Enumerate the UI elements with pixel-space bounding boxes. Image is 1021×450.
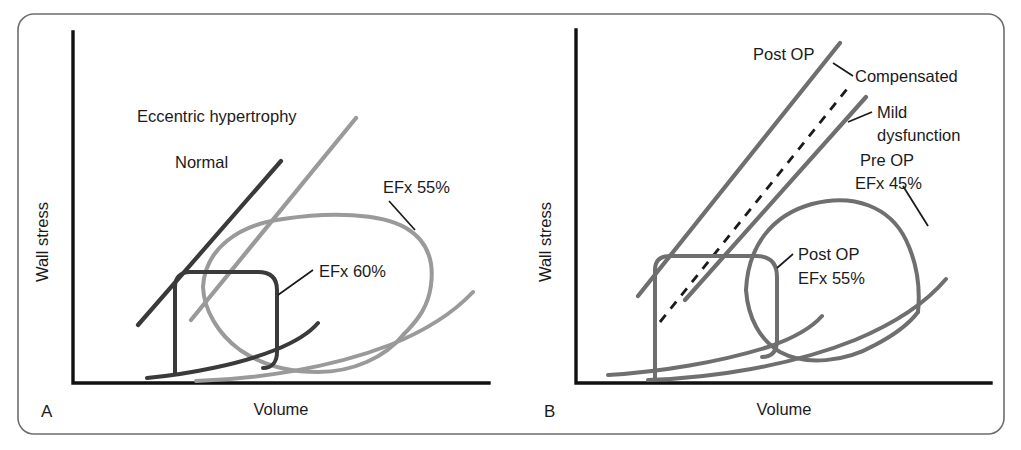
label-eccentric-hypertrophy: Eccentric hypertrophy <box>137 107 297 125</box>
label-dysfunction: dysfunction <box>877 126 960 144</box>
panel-a-y-axis-label: Wall stress <box>33 202 51 282</box>
panel-b-x-axis-label: Volume <box>756 400 811 418</box>
label-pre-op: Pre OP <box>860 151 914 169</box>
pressure-volume-loop-diagram: Wall stress Volume A Eccentric hypertro <box>0 0 1021 450</box>
panel-b-y-axis-label: Wall stress <box>536 202 554 282</box>
figure-container: Wall stress Volume A Eccentric hypertro <box>0 0 1021 450</box>
panel-b-letter: B <box>544 402 555 421</box>
panel-a-x-axis-label: Volume <box>253 400 308 418</box>
label-efx-55: EFx 55% <box>383 178 450 196</box>
label-normal: Normal <box>175 153 228 171</box>
label-mild: Mild <box>877 103 907 121</box>
label-efx-60: EFx 60% <box>319 262 386 280</box>
label-post-op-line: Post OP <box>753 45 814 63</box>
label-post-op-efx-55: EFx 55% <box>798 269 865 287</box>
label-efx-45: EFx 45% <box>855 174 922 192</box>
label-post-op-loop: Post OP <box>798 245 859 263</box>
panel-a-letter: A <box>41 402 53 421</box>
label-compensated: Compensated <box>855 67 958 85</box>
